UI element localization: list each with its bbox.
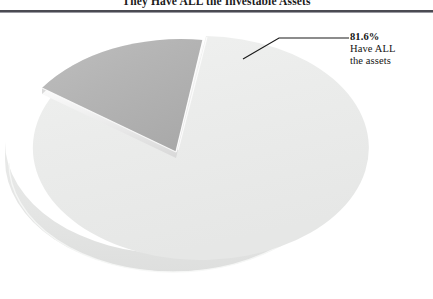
callout-percent: 81.6% (350, 31, 433, 43)
callout-line-2: the assets (350, 55, 433, 67)
pie-chart-figure: They Have ALL the Investable Assets (0, 0, 433, 299)
callout-line-1: Have ALL (350, 43, 433, 55)
callout-label: 81.6% Have ALL the assets (350, 31, 433, 68)
